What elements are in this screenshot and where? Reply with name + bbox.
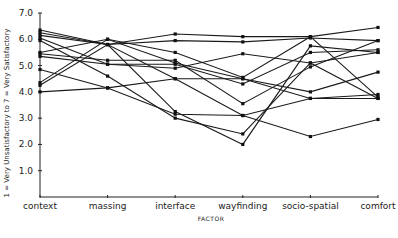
y-tick-label: 4.0	[19, 87, 34, 97]
data-point	[376, 26, 379, 29]
data-point	[241, 102, 244, 105]
data-point	[38, 68, 41, 71]
data-point	[38, 55, 41, 58]
data-point	[241, 82, 244, 85]
y-axis-title: 1 = Very Unsatisfactory to 7 = Very Sati…	[3, 29, 11, 198]
x-tick-label-context: context	[23, 201, 57, 211]
line-chart: 1.02.03.04.05.06.07.0contextmassinginter…	[0, 0, 398, 238]
data-point	[376, 97, 379, 100]
data-point	[38, 39, 41, 42]
x-tick-label-interface: interface	[155, 201, 196, 211]
data-point	[241, 77, 244, 80]
data-point	[174, 39, 177, 42]
x-tick-label-comfort: comfort	[360, 201, 396, 211]
series-s10	[38, 38, 379, 94]
data-point	[376, 51, 379, 54]
data-point	[309, 44, 312, 47]
y-tick-label: 3.0	[19, 113, 34, 123]
data-point	[309, 97, 312, 100]
data-point	[241, 52, 244, 55]
data-point	[106, 43, 109, 46]
data-point	[174, 61, 177, 64]
data-point	[174, 77, 177, 80]
x-tick-label-wayfinding: wayfinding	[218, 201, 267, 211]
data-point	[106, 59, 109, 62]
data-point	[38, 84, 41, 87]
y-tick-label: 2.0	[19, 139, 34, 149]
data-point	[376, 93, 379, 96]
y-tick-label: 6.0	[19, 34, 34, 44]
data-point	[174, 51, 177, 54]
data-point	[309, 35, 312, 38]
data-point	[376, 71, 379, 74]
data-point	[38, 90, 41, 93]
data-point	[309, 61, 312, 64]
data-point	[174, 117, 177, 120]
data-point	[106, 74, 109, 77]
data-point	[106, 86, 109, 89]
data-point	[376, 118, 379, 121]
data-point	[106, 63, 109, 66]
data-point	[241, 35, 244, 38]
data-point	[309, 65, 312, 68]
data-point	[106, 38, 109, 41]
y-tick-label: 1.0	[19, 166, 34, 176]
x-tick-label-socio-spatial: socio-spatial	[282, 201, 339, 211]
x-axis-title: FACTOR	[198, 215, 225, 222]
series-line	[40, 70, 378, 116]
data-point	[241, 132, 244, 135]
x-tick-label-massing: massing	[89, 201, 127, 211]
data-point	[174, 67, 177, 70]
data-point	[309, 51, 312, 54]
series-s9	[38, 68, 379, 117]
data-point	[174, 113, 177, 116]
series-s2	[38, 31, 379, 46]
data-point	[309, 90, 312, 93]
data-point	[376, 39, 379, 42]
y-tick-label: 5.0	[19, 61, 34, 71]
data-point	[241, 40, 244, 43]
data-point	[241, 143, 244, 146]
y-tick-label: 7.0	[19, 8, 34, 18]
data-point	[174, 32, 177, 35]
data-point	[309, 135, 312, 138]
data-point	[241, 114, 244, 117]
series-group	[38, 26, 379, 146]
